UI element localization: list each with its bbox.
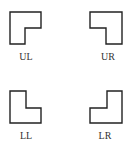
l-shapes-diagram: UL UR LL LR bbox=[0, 0, 139, 145]
shape-ul bbox=[10, 12, 41, 44]
label-ur: UR bbox=[101, 51, 115, 62]
label-ul: UL bbox=[19, 51, 32, 62]
label-ll: LL bbox=[20, 130, 32, 141]
shape-ul-group: UL bbox=[10, 12, 41, 62]
shape-lr bbox=[90, 91, 122, 123]
shape-ur bbox=[90, 12, 122, 44]
label-lr: LR bbox=[99, 130, 112, 141]
shape-ll-group: LL bbox=[10, 91, 41, 141]
shape-lr-group: LR bbox=[90, 91, 122, 141]
shape-ur-group: UR bbox=[90, 12, 122, 62]
shape-ll bbox=[10, 91, 41, 123]
